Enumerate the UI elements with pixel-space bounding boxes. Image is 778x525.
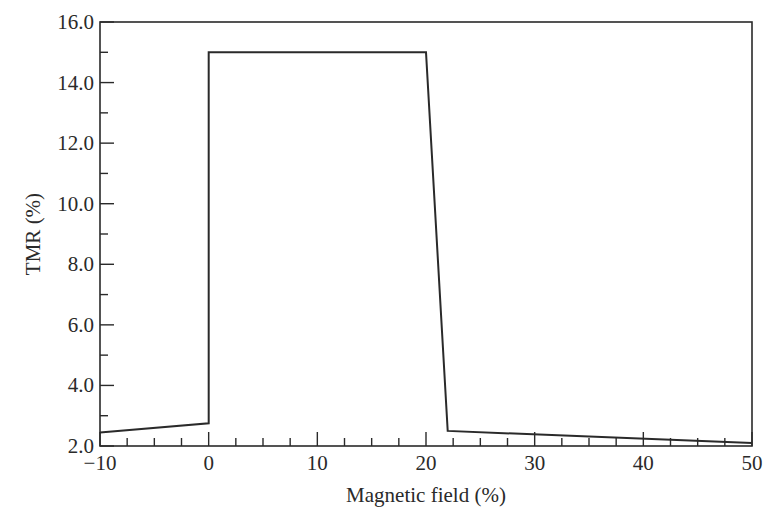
y-tick-label: 12.0 — [57, 131, 94, 155]
y-tick-label: 4.0 — [68, 373, 94, 397]
y-tick-label: 10.0 — [57, 192, 94, 216]
y-tick-label: 2.0 — [68, 434, 94, 458]
y-tick-label: 6.0 — [68, 313, 94, 337]
x-axis-label: Magnetic field (%) — [346, 483, 506, 507]
tick-labels: −10010203040502.04.06.08.010.012.014.016… — [57, 10, 762, 475]
x-tick-label: 40 — [633, 451, 654, 475]
tmr-chart: −10010203040502.04.06.08.010.012.014.016… — [0, 0, 778, 525]
tmr-series-line — [100, 52, 752, 443]
y-tick-label: 14.0 — [57, 71, 94, 95]
x-tick-label: 10 — [307, 451, 328, 475]
axis-ticks — [100, 22, 752, 446]
y-axis-label: TMR (%) — [21, 193, 45, 275]
y-tick-label: 16.0 — [57, 10, 94, 34]
x-tick-label: 50 — [742, 451, 763, 475]
plot-frame — [100, 22, 752, 446]
x-tick-label: 30 — [524, 451, 545, 475]
y-tick-label: 8.0 — [68, 252, 94, 276]
x-tick-label: 0 — [203, 451, 214, 475]
x-tick-label: 20 — [416, 451, 437, 475]
